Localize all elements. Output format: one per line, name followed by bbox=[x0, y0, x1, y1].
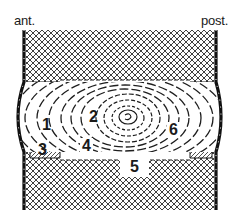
anterior-label: ant. bbox=[14, 14, 35, 27]
region-label-4: 4 bbox=[80, 138, 93, 154]
region-label-2: 2 bbox=[89, 109, 98, 125]
region-label-5: 5 bbox=[120, 157, 149, 177]
region-label-1: 1 bbox=[42, 117, 51, 133]
region-label-6: 6 bbox=[167, 122, 180, 138]
posterior-label: post. bbox=[201, 14, 228, 27]
disc-diagram: ant. post. 1 2 3 4 5 6 bbox=[0, 0, 238, 223]
region-label-3: 3 bbox=[38, 142, 47, 158]
lower-vertebra bbox=[26, 145, 214, 210]
diagram-canvas bbox=[0, 0, 238, 223]
